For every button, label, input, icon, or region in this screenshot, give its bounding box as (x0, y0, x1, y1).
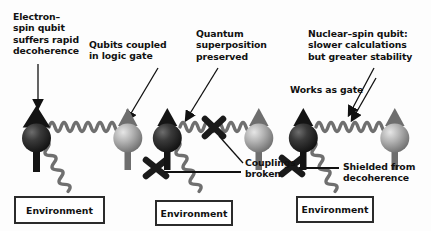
pointer-quantum-superposition (186, 68, 218, 120)
caption-qubits-coupled-in-logic-gate: Qubits coupled in logic gate (89, 39, 167, 62)
leader-couplings-broken-gate (219, 136, 243, 163)
qubit-dark-panel-1 (22, 108, 51, 172)
coupling-broken-cross-gate (205, 119, 223, 136)
figure-canvas: Electron– spin qubit suffers rapid decoh… (0, 0, 431, 231)
caption-works-as-gate: Works as gate (290, 84, 363, 95)
qubit-dark-panel-2 (153, 108, 182, 170)
coupling-wave-panel-1 (49, 123, 121, 132)
coupling-broken-cross-environment (146, 160, 166, 176)
qubit-light-panel-1 (113, 108, 142, 170)
environment-box-panel-3: Environment (296, 196, 374, 223)
caption-electron-spin-qubit: Electron– spin qubit suffers rapid decoh… (13, 11, 79, 57)
pointer-qubits-coupled (127, 68, 158, 120)
caption-nuclear-spin-qubit: Nuclear–spin qubit: slower calculations … (308, 28, 412, 62)
caption-shielded-from-decoherence: Shielded from decoherence (343, 161, 415, 184)
coupling-wave-panel-3 (316, 123, 388, 132)
caption-couplings-broken: Couplings broken (245, 157, 296, 180)
environment-box-panel-2: Environment (155, 200, 233, 226)
caption-quantum-superposition-preserved: Quantum superposition preserved (196, 28, 267, 62)
environment-box-panel-1: Environment (14, 196, 105, 224)
